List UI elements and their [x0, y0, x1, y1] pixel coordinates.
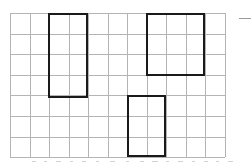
grid-line-horizontal-5: [10, 116, 225, 117]
scan-artifact-0: [32, 161, 36, 162]
rectangle-left: [48, 13, 88, 98]
scan-artifact-2: [56, 161, 61, 162]
grid-line-horizontal-7: [10, 157, 225, 158]
scan-artifact-10: [166, 161, 169, 162]
rectangle-top-right: [146, 13, 205, 76]
scan-artifact-1: [44, 161, 47, 162]
scan-artifact-13: [204, 161, 208, 162]
scan-artifact-14: [216, 161, 219, 162]
scan-artifact-5: [96, 161, 99, 162]
scan-artifact-15: [228, 161, 233, 162]
grid-diagram-figure: [0, 0, 251, 166]
scan-artifact-4: [82, 161, 86, 162]
scan-artifact-7: [126, 161, 129, 162]
scan-artifact-3: [70, 161, 73, 162]
bottom-scan-artifacts: [0, 160, 251, 166]
scan-artifact-8: [140, 161, 144, 162]
scan-artifact-6: [110, 161, 115, 162]
scan-artifact-12: [192, 161, 195, 162]
grid-line-horizontal-4: [10, 95, 225, 96]
grid-line-vertical-11: [225, 13, 226, 157]
scan-artifact-9: [152, 161, 158, 162]
scan-artifact-11: [178, 161, 183, 162]
corner-mark-horizontal: [239, 18, 251, 19]
rectangle-bottom-middle: [127, 95, 166, 157]
crop-corner-mark: [239, 8, 251, 30]
grid-line-horizontal-6: [10, 137, 225, 138]
